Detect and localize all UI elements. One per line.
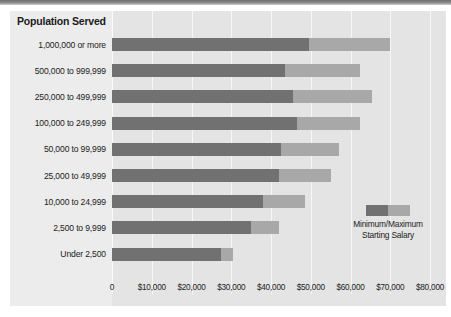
bar-segment-maximum xyxy=(293,90,373,103)
category-label: 2,500 to 9,999 xyxy=(6,223,106,233)
bar-row xyxy=(112,248,233,261)
x-axis-tick-label: $80,000 xyxy=(407,283,451,292)
bar-segment-maximum xyxy=(279,169,331,182)
bar-segment-maximum xyxy=(251,221,279,234)
category-label: 250,000 to 499,999 xyxy=(6,92,106,102)
category-label: 10,000 to 24,999 xyxy=(6,197,106,207)
bar-segment-maximum xyxy=(281,143,339,156)
legend-swatch-maximum xyxy=(388,205,410,216)
bar-row xyxy=(112,117,360,130)
chart-container: Population Served 1,000,000 or more500,0… xyxy=(0,0,451,317)
bar-segment-minimum xyxy=(112,143,281,156)
bar-row xyxy=(112,64,360,77)
bar-row xyxy=(112,38,390,51)
bar-row xyxy=(112,169,331,182)
category-label: 500,000 to 999,999 xyxy=(6,66,106,76)
chart-title: Population Served xyxy=(17,15,106,27)
legend-label-line-1: Minimum/Maximum xyxy=(336,219,440,230)
category-label: 50,000 to 99,999 xyxy=(6,144,106,154)
category-label-gutter xyxy=(10,11,112,306)
bar-row xyxy=(112,143,339,156)
bar-segment-minimum xyxy=(112,248,221,261)
bar-segment-maximum xyxy=(285,64,361,77)
bar-segment-minimum xyxy=(112,38,309,51)
bar-segment-minimum xyxy=(112,90,293,103)
bar-segment-minimum xyxy=(112,195,263,208)
bar-segment-maximum xyxy=(297,117,361,130)
bar-segment-maximum xyxy=(221,248,233,261)
bar-row xyxy=(112,221,279,234)
legend-swatch xyxy=(366,205,410,216)
gridline xyxy=(351,11,352,294)
top-divider-rule xyxy=(0,0,451,5)
bar-row xyxy=(112,90,372,103)
category-label: 25,000 to 49,999 xyxy=(6,171,106,181)
bar-segment-minimum xyxy=(112,221,251,234)
bar-segment-maximum xyxy=(309,38,390,51)
bar-row xyxy=(112,195,305,208)
plot-area-background xyxy=(112,11,446,306)
category-label: Under 2,500 xyxy=(6,249,106,259)
legend-label-line-2: Starting Salary xyxy=(336,230,440,241)
gridline xyxy=(430,11,431,294)
gridline xyxy=(390,11,391,294)
legend: Minimum/Maximum Starting Salary xyxy=(336,205,440,241)
legend-swatch-minimum xyxy=(366,205,388,216)
bar-segment-minimum xyxy=(112,117,297,130)
category-label: 1,000,000 or more xyxy=(6,40,106,50)
bar-segment-minimum xyxy=(112,64,285,77)
category-label: 100,000 to 249,999 xyxy=(6,118,106,128)
bar-segment-maximum xyxy=(263,195,305,208)
bar-segment-minimum xyxy=(112,169,279,182)
